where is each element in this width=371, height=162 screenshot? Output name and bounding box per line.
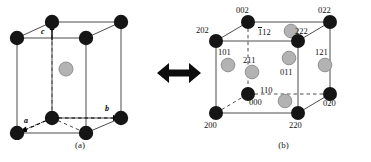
corner-atom-220 — [291, 106, 305, 120]
corner-atom-back-bottom-left — [45, 111, 59, 125]
label-020: 020 — [323, 99, 336, 108]
corner-atom-200 — [209, 106, 223, 120]
label-101: 101 — [218, 48, 231, 57]
interior-atom — [59, 62, 73, 76]
corner-atom-front-bottom-right — [79, 126, 93, 140]
corner-atom-front-top-left — [10, 31, 24, 45]
label-121: 121 — [315, 48, 328, 57]
corner-atom-front-bottom-left — [10, 126, 24, 140]
interior-atom-110 — [278, 94, 292, 108]
corner-atom-002 — [241, 15, 255, 29]
label-112-rest: 12 — [262, 27, 271, 37]
double-headed-arrow-icon — [157, 60, 201, 86]
label-222: 222 — [295, 27, 308, 36]
interior-atom-121 — [318, 58, 332, 72]
axis-label-a: a — [24, 117, 28, 125]
label-022: 022 — [318, 6, 331, 15]
interior-atoms — [221, 24, 332, 108]
interior-atom-011 — [282, 51, 296, 65]
label-211: 211 — [243, 56, 255, 65]
label-011: 011 — [280, 68, 292, 77]
corner-atom-front-top-right — [79, 31, 93, 45]
corner-atom-back-top-left — [45, 15, 59, 29]
caption-panel-b: (b) — [196, 140, 371, 150]
panel-b-indexed-unit-cell: 002 022 202 222 112 101 211 011 121 110 … — [196, 0, 371, 162]
label-202: 202 — [196, 26, 209, 35]
corner-atom-222 — [291, 34, 305, 48]
axis-label-b: b — [105, 105, 109, 113]
axis-arrows — [17, 23, 121, 133]
corner-atom-202 — [209, 34, 223, 48]
interior-atom-211 — [245, 65, 259, 79]
label-112: 112 — [258, 27, 271, 37]
corner-atom-022 — [323, 15, 337, 29]
label-000: 000 — [249, 98, 262, 107]
axis-label-c: c — [41, 28, 45, 36]
label-220: 220 — [289, 121, 302, 130]
panel-a-unit-cell: c b a (a) — [0, 0, 160, 162]
label-200: 200 — [204, 121, 217, 130]
figure-unit-cell-comparison: c b a (a) — [0, 0, 371, 162]
label-002: 002 — [236, 6, 249, 15]
corner-atom-back-top-right — [114, 15, 128, 29]
label-110: 110 — [260, 86, 272, 95]
caption-panel-a: (a) — [0, 140, 160, 150]
interior-atom-101 — [221, 58, 235, 72]
corner-atom-back-bottom-right — [114, 111, 128, 125]
